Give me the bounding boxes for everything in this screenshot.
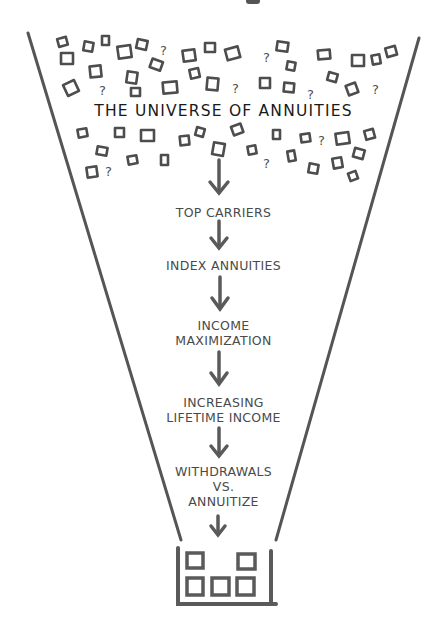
arrow-down-icon (211, 352, 227, 384)
stage-top-carriers: TOP CARRIERS (0, 205, 447, 220)
arrow-down-icon (211, 428, 227, 456)
svg-text:?: ? (372, 82, 379, 97)
bin-box (212, 578, 229, 595)
output-bin (178, 548, 276, 604)
svg-text:?: ? (307, 87, 314, 102)
arrow-down-icon (211, 221, 227, 248)
svg-text:?: ? (160, 43, 167, 58)
svg-text:?: ? (263, 156, 270, 171)
arrow-down-icon (212, 277, 228, 309)
funnel-graphic: ? ? ? ? ? ? ? ? ? (0, 0, 447, 626)
arrow-down-icon (211, 516, 225, 535)
stage-index-annuities: INDEX ANNUITIES (0, 258, 447, 273)
svg-text:?: ? (232, 81, 239, 96)
stage-increasing-lifetime-income: INCREASING LIFETIME INCOME (0, 395, 447, 425)
svg-text:?: ? (263, 50, 270, 65)
diagram-title: THE UNIVERSE OF ANNUITIES (0, 102, 447, 120)
bin-box (187, 553, 203, 568)
arrow-down-icon (210, 160, 228, 193)
bin-box (237, 578, 254, 595)
bin-box (187, 578, 203, 595)
bin-box (238, 554, 255, 569)
svg-text:?: ? (99, 83, 106, 98)
svg-text:?: ? (105, 164, 112, 179)
svg-text:?: ? (318, 133, 325, 148)
stage-income-maximization: INCOME MAXIMIZATION (0, 318, 447, 348)
stage-withdrawals-vs-annuitize: WITHDRAWALS VS. ANNUITIZE (0, 464, 447, 509)
